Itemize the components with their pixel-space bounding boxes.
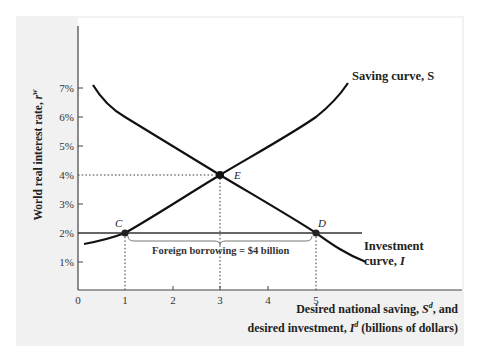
svg-text:7%: 7% bbox=[59, 82, 74, 94]
svg-text:4%: 4% bbox=[59, 169, 74, 181]
investment-curve bbox=[93, 85, 366, 262]
saving-curve-label: Saving curve, S bbox=[352, 69, 434, 84]
point-c-label: C bbox=[115, 217, 122, 229]
saving-curve bbox=[84, 83, 348, 244]
svg-text:1%: 1% bbox=[59, 256, 74, 268]
svg-text:0: 0 bbox=[75, 294, 81, 306]
investment-curve-label: Investment curve, I bbox=[364, 239, 424, 269]
y-tick-labels: 7% 6% 5% 4% 3% 2% 1% bbox=[59, 82, 74, 268]
point-d-label: D bbox=[318, 217, 326, 229]
svg-text:3%: 3% bbox=[59, 198, 74, 210]
svg-text:6%: 6% bbox=[59, 111, 74, 123]
svg-text:2%: 2% bbox=[59, 227, 74, 239]
svg-text:5%: 5% bbox=[59, 140, 74, 152]
point-e-label: E bbox=[234, 169, 241, 181]
x-axis-label: Desired national saving, Sd, and desired… bbox=[248, 298, 458, 336]
point-c-marker bbox=[121, 229, 128, 236]
foreign-borrowing-label: Foreign borrowing = $4 billion bbox=[152, 245, 289, 256]
point-e-marker bbox=[216, 171, 224, 179]
svg-text:1: 1 bbox=[122, 294, 128, 306]
point-d-marker bbox=[312, 229, 319, 236]
svg-text:2: 2 bbox=[170, 294, 176, 306]
svg-text:3: 3 bbox=[217, 294, 223, 306]
foreign-borrowing-brace bbox=[128, 236, 312, 245]
y-axis-label: World real interest rate, rw bbox=[30, 89, 44, 220]
